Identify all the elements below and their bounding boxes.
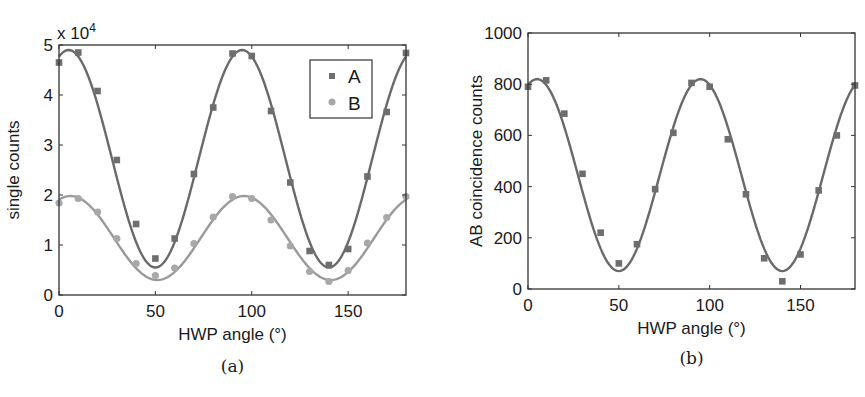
y-axis-label: single counts — [4, 120, 23, 219]
y-tick-label: 600 — [494, 126, 522, 145]
y-tick-label: 800 — [494, 75, 522, 94]
legend-label-a: A — [348, 66, 361, 87]
y-tick-label: 3 — [44, 136, 53, 155]
data-point — [306, 248, 313, 255]
chart-panel-a: 050100150012345HWP angle (°)single count… — [4, 21, 410, 376]
y-axis-label: AB coincidence counts — [467, 75, 486, 247]
data-point — [75, 49, 82, 56]
x-axis-label: HWP angle (°) — [637, 319, 746, 338]
x-axis-label: HWP angle (°) — [178, 325, 287, 344]
data-point — [706, 83, 713, 90]
y-tick-label: 400 — [494, 178, 522, 197]
data-point — [670, 130, 677, 137]
data-point — [815, 187, 822, 194]
data-point — [94, 88, 101, 95]
data-point — [743, 191, 750, 198]
data-point — [229, 50, 236, 57]
data-point — [75, 195, 82, 202]
series-b-points — [55, 193, 409, 285]
x-tick-label: 50 — [609, 296, 628, 315]
data-point — [797, 251, 804, 258]
y-tick-label: 4 — [44, 86, 53, 105]
legend: AB — [310, 60, 372, 118]
data-point — [210, 213, 217, 220]
data-point — [561, 110, 568, 117]
data-point — [326, 262, 333, 269]
legend-label-b: B — [348, 93, 361, 114]
y-tick-label: 5 — [44, 36, 53, 55]
data-point — [210, 104, 217, 111]
data-point — [634, 241, 641, 248]
data-point — [133, 260, 140, 267]
data-point — [761, 255, 768, 262]
data-point — [325, 278, 332, 285]
data-point — [171, 264, 178, 271]
data-point — [345, 246, 352, 253]
data-point — [306, 268, 313, 275]
legend-marker-a — [329, 73, 335, 79]
x-tick-label: 0 — [523, 296, 532, 315]
data-point — [287, 179, 294, 186]
series-ab-coincidences-points — [525, 77, 859, 285]
data-point — [779, 278, 786, 285]
data-point — [597, 229, 604, 236]
data-point — [114, 157, 121, 164]
data-point — [229, 193, 236, 200]
x-tick-label: 50 — [146, 302, 165, 321]
data-point — [190, 240, 197, 247]
data-point — [267, 216, 274, 223]
data-point — [133, 221, 140, 228]
y-multiplier: x 104 — [57, 21, 96, 43]
y-tick-label: 0 — [44, 286, 53, 305]
legend-marker-b — [329, 99, 336, 106]
data-point — [191, 171, 198, 178]
data-point — [725, 136, 732, 143]
data-point — [113, 235, 120, 242]
data-point — [248, 195, 255, 202]
y-tick-label: 200 — [494, 229, 522, 248]
y-tick-label: 1000 — [484, 24, 522, 43]
panel-caption: (b) — [679, 348, 703, 368]
panel-caption: (a) — [221, 356, 244, 376]
data-point — [579, 171, 586, 178]
figure: 050100150012345HWP angle (°)single count… — [0, 0, 865, 397]
data-point — [94, 208, 101, 215]
data-point — [248, 53, 255, 60]
data-point — [652, 186, 659, 193]
data-point — [152, 255, 159, 262]
y-tick-label: 2 — [44, 186, 53, 205]
data-point — [688, 80, 695, 87]
chart-panel-b: 05010015002004006008001000HWP angle (°)A… — [467, 24, 858, 368]
data-point — [287, 242, 294, 249]
fit-curve-ab-coincidences — [528, 79, 855, 271]
data-point — [834, 132, 841, 139]
plot-frame — [528, 33, 855, 289]
fit-curve-b — [59, 196, 406, 280]
data-point — [383, 109, 390, 116]
x-tick-label: 150 — [334, 302, 362, 321]
data-point — [616, 260, 623, 267]
data-point — [383, 214, 390, 221]
y-tick-label: 0 — [513, 280, 522, 299]
x-tick-label: 0 — [54, 302, 63, 321]
data-point — [345, 267, 352, 274]
data-point — [268, 108, 275, 115]
y-tick-label: 1 — [44, 236, 53, 255]
data-point — [152, 272, 159, 279]
data-point — [171, 235, 178, 242]
x-tick-label: 100 — [238, 302, 266, 321]
x-tick-label: 150 — [786, 296, 814, 315]
data-point — [543, 77, 550, 84]
data-point — [364, 239, 371, 246]
x-tick-label: 100 — [695, 296, 723, 315]
data-point — [364, 173, 371, 180]
